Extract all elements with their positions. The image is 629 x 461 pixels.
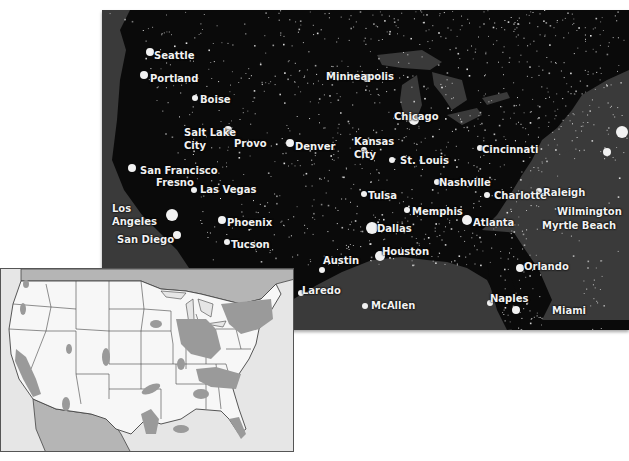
city-label-austin: Austin (323, 255, 359, 266)
city-label-naples: Naples (490, 293, 528, 304)
city-label-kansas: Kansas (354, 136, 394, 147)
city-label-charlotte: Charlotte (494, 190, 547, 201)
city-label-houston: Houston (382, 246, 429, 257)
city-label-san-francisco: San Francisco (140, 165, 218, 176)
city-label-orlando: Orlando (524, 261, 569, 272)
city-label-laredo: Laredo (302, 285, 341, 296)
city-label-tucson: Tucson (231, 239, 270, 250)
city-label-dallas: Dallas (377, 223, 412, 234)
city-label-san-diego: San Diego (117, 234, 174, 245)
city-label-portland: Portland (150, 73, 198, 84)
city-label-atlanta: Atlanta (473, 217, 514, 228)
city-label-seattle: Seattle (154, 50, 195, 61)
city-label-fresno: Fresno (156, 177, 194, 188)
city-label-cincinnati: Cincinnati (482, 144, 538, 155)
city-label-st-louis: St. Louis (400, 155, 449, 166)
city-label-provo: Provo (234, 138, 267, 149)
city-label-phoenix: Phoenix (227, 217, 272, 228)
city-label-wilmington: Wilmington (557, 206, 622, 217)
city-label-tulsa: Tulsa (368, 190, 397, 201)
inset-map-graphic (1, 269, 294, 452)
city-label-minneapolis: Minneapolis (326, 71, 394, 82)
city-label-myrtle-beach: Myrtle Beach (542, 220, 616, 231)
city-label-salt-lake: Salt Lake (184, 127, 236, 138)
city-label-raleigh: Raleigh (543, 187, 585, 198)
city-label-los: Los (112, 203, 131, 214)
city-label-mcallen: McAllen (371, 300, 415, 311)
city-label-city: City (354, 149, 376, 160)
city-label-nashville: Nashville (439, 177, 491, 188)
urban-areas-reference-map (0, 268, 294, 452)
city-label-angeles: Angeles (112, 216, 157, 227)
city-label-chicago: Chicago (394, 111, 439, 122)
city-label-boise: Boise (200, 94, 231, 105)
city-label-city: City (184, 140, 206, 151)
city-label-denver: Denver (295, 141, 335, 152)
city-label-las-vegas: Las Vegas (200, 184, 256, 195)
city-label-miami: Miami (552, 305, 586, 316)
city-label-memphis: Memphis (412, 206, 463, 217)
